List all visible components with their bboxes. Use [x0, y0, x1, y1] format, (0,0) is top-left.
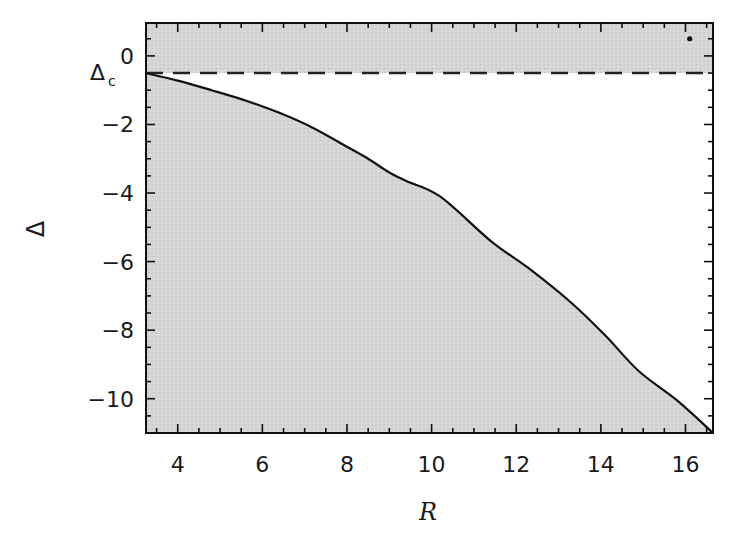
y-tick-label: −10	[88, 387, 134, 412]
y-tick-labels: 0−2−4−6−8−10	[88, 44, 134, 412]
y-tick-label: −8	[102, 318, 134, 343]
plot-area	[146, 23, 713, 433]
x-tick-label: 14	[587, 452, 615, 477]
x-tick-labels: 46810121416	[171, 452, 700, 477]
delta-c-symbol: Δ	[90, 60, 105, 85]
chart: 46810121416 0−2−4−6−8−10 R Δ Δ c	[0, 0, 737, 534]
x-axis-label: R	[418, 498, 437, 526]
dot-marker	[687, 36, 692, 41]
lower-shaded-region	[146, 73, 713, 433]
x-tick-label: 4	[171, 452, 185, 477]
x-tick-label: 10	[418, 452, 446, 477]
x-tick-label: 16	[671, 452, 699, 477]
x-tick-label: 6	[255, 452, 269, 477]
y-tick-label: 0	[120, 44, 134, 69]
x-tick-label: 8	[340, 452, 354, 477]
x-tick-label: 12	[502, 452, 530, 477]
y-axis-label: Δ	[22, 220, 50, 237]
y-tick-label: −4	[102, 181, 134, 206]
top-shaded-region	[146, 23, 713, 73]
delta-c-annotation: Δ c	[90, 60, 116, 89]
y-tick-label: −6	[102, 250, 134, 275]
y-tick-label: −2	[102, 112, 134, 137]
delta-c-subscript: c	[108, 73, 116, 89]
